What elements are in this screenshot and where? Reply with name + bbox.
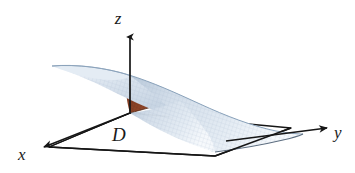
figure-canvas: z y x D — [0, 0, 355, 173]
z-axis-label: z — [114, 9, 122, 28]
x-axis-label: x — [17, 145, 26, 164]
domain-label: D — [111, 124, 126, 145]
y-axis-label: y — [332, 123, 342, 142]
surface-figure: z y x D — [0, 0, 355, 173]
